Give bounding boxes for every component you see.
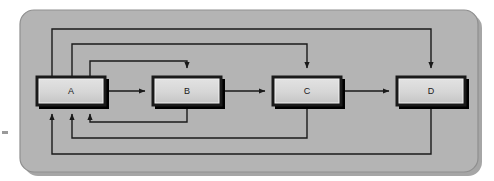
node-d-label: D xyxy=(428,86,435,96)
node-c[interactable]: C xyxy=(272,76,345,109)
node-b[interactable]: B xyxy=(152,76,225,109)
block-diagram: A B C D xyxy=(0,0,494,181)
node-b-label: B xyxy=(184,86,190,96)
node-a[interactable]: A xyxy=(36,76,109,109)
node-a-label: A xyxy=(68,86,74,96)
left-margin-tick xyxy=(2,131,8,134)
node-d[interactable]: D xyxy=(396,76,469,109)
node-c-label: C xyxy=(304,86,311,96)
figure-root: A B C D xyxy=(0,0,494,181)
